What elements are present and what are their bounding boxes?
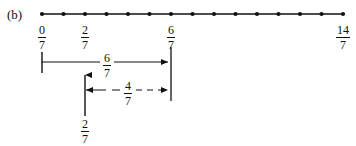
tick-dot xyxy=(169,12,173,16)
tick-dot xyxy=(126,12,130,16)
tick-label-14-7: 14 7 xyxy=(336,24,350,51)
span-label-6-7: 6 7 xyxy=(100,52,114,79)
tick-dot xyxy=(147,12,151,16)
tick-dot xyxy=(212,12,216,16)
tick-label-0-7-numerator: 0 xyxy=(38,24,46,38)
tick-dot xyxy=(233,12,237,16)
tick-dot xyxy=(61,12,65,16)
pointer-label-2-7-numerator: 2 xyxy=(81,118,89,132)
tick-dot xyxy=(319,12,323,16)
tick-dot xyxy=(255,12,259,16)
tick-dot xyxy=(104,12,108,16)
figure-vector-layer xyxy=(0,0,356,146)
span-label-4-7: 4 7 xyxy=(121,80,135,107)
tick-dot xyxy=(190,12,194,16)
fraction-number-line-figure: (b) xyxy=(0,0,356,146)
tick-dot xyxy=(341,12,345,16)
pointer-label-2-7-denominator: 7 xyxy=(81,132,89,145)
tick-label-2-7-numerator: 2 xyxy=(81,24,89,38)
number-line-ticks xyxy=(40,12,345,16)
tick-label-0-7: 0 7 xyxy=(38,24,46,51)
tick-label-6-7-denominator: 7 xyxy=(167,38,175,51)
span-label-4-7-numerator: 4 xyxy=(124,80,132,94)
tick-label-0-7-denominator: 7 xyxy=(38,38,46,51)
tick-dot xyxy=(298,12,302,16)
tick-label-2-7: 2 7 xyxy=(81,24,89,51)
tick-label-6-7: 6 7 xyxy=(167,24,175,51)
tick-label-14-7-denominator: 7 xyxy=(336,38,350,51)
tick-label-2-7-denominator: 7 xyxy=(81,38,89,51)
tick-label-6-7-numerator: 6 xyxy=(167,24,175,38)
tick-dot xyxy=(276,12,280,16)
number-line-axis xyxy=(40,12,345,16)
tick-label-14-7-numerator: 14 xyxy=(336,24,350,38)
pointer-label-2-7: 2 7 xyxy=(81,118,89,145)
span-label-6-7-denominator: 7 xyxy=(103,66,111,79)
span-label-6-7-numerator: 6 xyxy=(103,52,111,66)
tick-dot xyxy=(83,12,87,16)
tick-dot xyxy=(40,12,44,16)
span-label-4-7-denominator: 7 xyxy=(124,94,132,107)
